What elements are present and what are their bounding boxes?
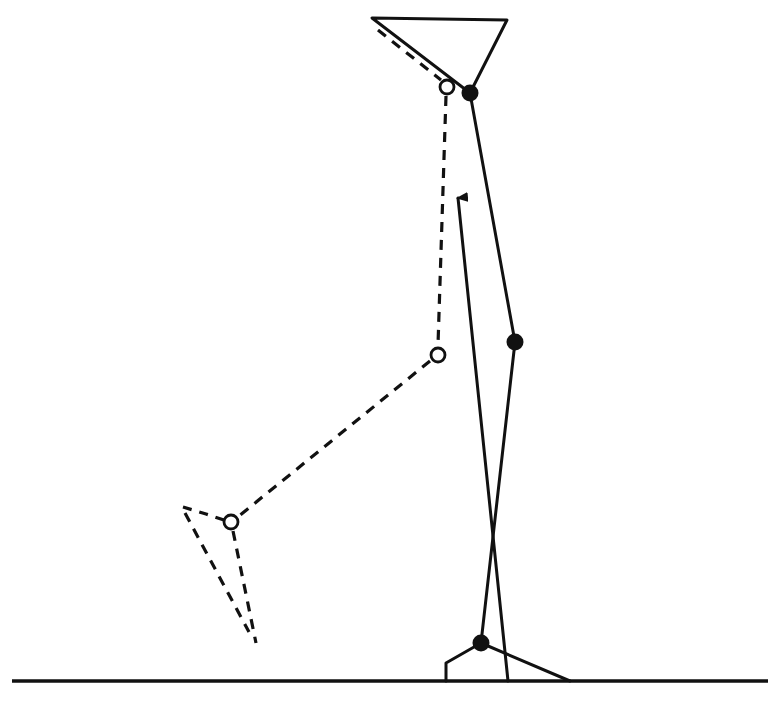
pelvis-triangle: [372, 18, 507, 93]
stance-foot-toe: [481, 643, 570, 681]
swing-knee-joint: [431, 348, 445, 362]
force-arrow: [458, 198, 508, 681]
swing-pelvis-dash: [378, 30, 441, 80]
stance-leg: [446, 85, 570, 682]
stance-knee-joint: [507, 334, 524, 351]
swing-foot-heel: [185, 513, 249, 632]
swing-hip-joint: [440, 80, 454, 94]
swing-ankle-joint: [224, 515, 238, 529]
gait-diagram: [0, 0, 779, 711]
swing-leg: [183, 30, 454, 643]
swing-thigh: [438, 96, 446, 345]
swing-shank: [239, 361, 430, 516]
stance-hip-joint: [462, 85, 479, 102]
stance-ankle-joint: [473, 635, 490, 652]
